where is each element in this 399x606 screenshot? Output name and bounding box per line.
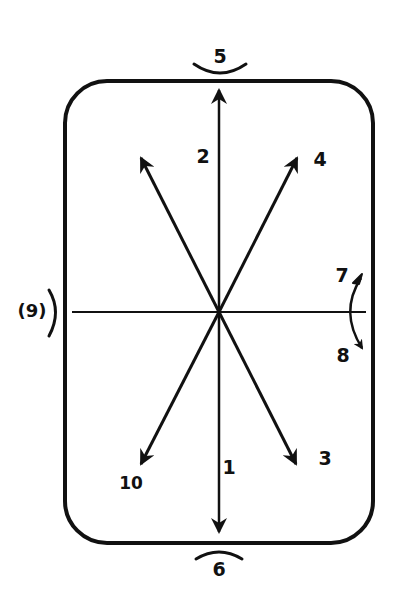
arc-9-left: [49, 290, 56, 336]
arrow-up-left: [141, 158, 219, 312]
arrowhead-7-icon: [353, 274, 362, 284]
label-5: 5: [213, 47, 226, 66]
direction-diagram: 5 6 2 4 (9) 7 8 1 3 10: [0, 0, 399, 606]
label-2: 2: [196, 147, 209, 166]
label-8: 8: [336, 346, 349, 365]
label-1: 1: [222, 458, 235, 477]
diagram-canvas: [0, 0, 399, 606]
label-4: 4: [313, 150, 326, 169]
arrow-10-down-left: [141, 312, 219, 464]
label-7: 7: [335, 266, 348, 285]
arrow-3-down-right: [219, 312, 296, 464]
arrow-4-up-right: [219, 158, 297, 312]
label-9: (9): [18, 302, 47, 320]
label-6: 6: [212, 560, 225, 579]
label-10: 10: [119, 475, 143, 492]
label-3: 3: [318, 449, 331, 468]
